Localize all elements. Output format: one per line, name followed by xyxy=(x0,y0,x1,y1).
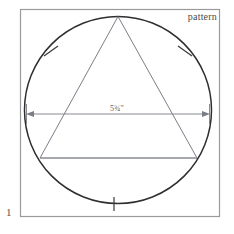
pattern-corner-label: pattern xyxy=(188,11,217,22)
figure-frame xyxy=(21,10,220,217)
figure-panel: 5¾" pattern 1 xyxy=(0,0,234,234)
diameter-label-text: 5¾" xyxy=(107,104,127,113)
figure-number-label: 1 xyxy=(6,206,12,218)
diameter-label: 5¾" xyxy=(0,104,234,113)
pattern-diagram xyxy=(0,0,234,234)
tick-marks-group xyxy=(44,46,192,211)
inscribed-triangle xyxy=(40,17,197,159)
